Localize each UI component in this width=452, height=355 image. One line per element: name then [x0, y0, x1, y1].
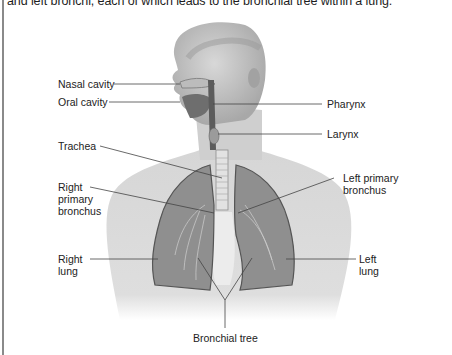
- label-right-primary-bronchus: Right primary bronchus: [58, 181, 101, 217]
- label-right-lung: Right lung: [58, 253, 83, 277]
- label-nasal-cavity: Nasal cavity: [58, 78, 115, 90]
- label-oral-cavity: Oral cavity: [58, 96, 108, 108]
- label-bronchial-tree: Bronchial tree: [193, 332, 258, 344]
- trachea-illustration: [216, 150, 228, 210]
- label-left-lung: Left lung: [359, 253, 379, 277]
- label-pharynx: Pharynx: [327, 98, 366, 110]
- label-trachea: Trachea: [58, 140, 96, 152]
- mediastinum: [211, 212, 235, 285]
- label-left-primary-bronchus: Left primary bronchus: [343, 172, 398, 196]
- label-larynx: Larynx: [327, 128, 359, 140]
